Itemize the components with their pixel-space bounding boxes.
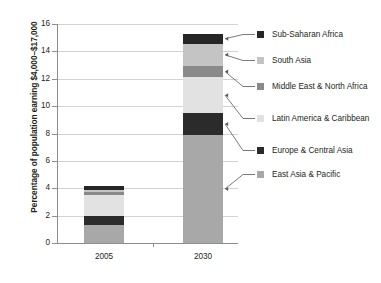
bar-segment [183, 77, 223, 113]
y-axis-tick-label: 10 [41, 102, 50, 110]
legend-item[interactable]: South Asia [257, 56, 311, 67]
y-axis-tick-label: 2 [45, 212, 50, 220]
y-axis-tick [52, 106, 57, 107]
legend-swatch-icon [257, 115, 264, 122]
bar-segment [84, 186, 124, 191]
legend-swatch-icon [257, 31, 264, 38]
bar-segment [183, 44, 223, 66]
y-axis-tick [52, 216, 57, 217]
legend-label: South Asia [272, 56, 311, 67]
y-axis-tick [52, 51, 57, 52]
legend-label: Sub-Saharan Africa [272, 30, 343, 41]
bar-segment [183, 34, 223, 44]
legend-label: Middle East & North Africa [272, 82, 368, 93]
legend-swatch-icon [257, 83, 264, 90]
y-axis-tick-label: 12 [41, 75, 50, 83]
y-axis-tick-label: 6 [45, 157, 50, 165]
bar-segment [183, 66, 223, 78]
y-axis-tick-label: 0 [45, 239, 50, 247]
legend-swatch-icon [257, 57, 264, 64]
bar-2005 [84, 24, 124, 243]
legend-item[interactable]: Europe & Central Asia [257, 146, 353, 157]
y-axis-tick-label: 4 [45, 184, 50, 192]
legend-swatch-icon [257, 171, 264, 178]
y-axis-tick-label: 14 [41, 47, 50, 55]
y-axis-title: Percentage of population earning $4,000–… [29, 7, 39, 227]
legend-label: East Asia & Pacific [272, 170, 340, 181]
bar-segment [84, 190, 124, 192]
y-axis-tick-label: 16 [41, 20, 50, 28]
y-axis-tick [52, 161, 57, 162]
legend-swatch-icon [257, 147, 264, 154]
y-axis-tick [52, 243, 57, 244]
legend-item[interactable]: Middle East & North Africa [257, 82, 368, 93]
x-axis-tick [153, 243, 154, 247]
x-axis-label-2030: 2030 [173, 252, 233, 261]
bar-segment [84, 225, 124, 243]
bar-segment [84, 195, 124, 216]
legend-label: Europe & Central Asia [272, 146, 353, 157]
bar-segment [183, 135, 223, 243]
y-axis-tick-label: 8 [45, 129, 50, 137]
stacked-bar-chart: Percentage of population earning $4,000–… [0, 0, 381, 283]
legend-label: Latin America & Caribbean [272, 114, 369, 125]
y-axis-tick [52, 134, 57, 135]
y-axis-tick [52, 79, 57, 80]
bar-segment [84, 216, 124, 224]
y-axis-tick [52, 188, 57, 189]
plot-area: 1614121086420 20052030 [57, 24, 238, 243]
bar-segment [183, 113, 223, 135]
legend-item[interactable]: Sub-Saharan Africa [257, 30, 343, 41]
x-axis-label-2005: 2005 [74, 252, 134, 261]
bar-segment [84, 192, 124, 195]
legend-item[interactable]: East Asia & Pacific [257, 170, 340, 181]
x-axis-line [57, 243, 238, 244]
legend-item[interactable]: Latin America & Caribbean [257, 114, 369, 125]
bar-2030 [183, 24, 223, 243]
y-axis-tick [52, 24, 57, 25]
